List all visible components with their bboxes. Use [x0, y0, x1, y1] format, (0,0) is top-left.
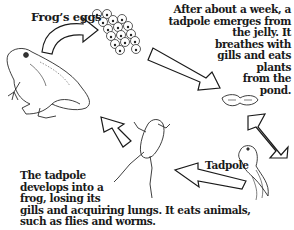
adult-frog-illustration: [7, 48, 89, 118]
caption-tadpole-to-frog: The tadpole develops into a frog, losing…: [20, 170, 251, 228]
arrow-froglet-to-frog: [101, 117, 131, 147]
frog-life-cycle-diagram: Frog’s eggs Tadpole After about a week, …: [0, 0, 294, 230]
caption-eggs-to-tadpole: After about a week, a tadpole emerges fr…: [169, 4, 291, 96]
hatchling-illustration: [222, 95, 258, 106]
label-frogs-eggs: Frog’s eggs: [31, 12, 101, 24]
